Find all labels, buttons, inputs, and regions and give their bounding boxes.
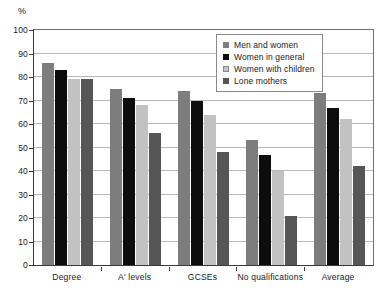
bar [246, 140, 258, 265]
bar-group [110, 30, 161, 265]
y-axis-tick-mark [29, 77, 33, 78]
bar [327, 108, 339, 265]
y-axis-tick-mark [29, 101, 33, 102]
y-axis-tick-label: 60 [4, 119, 28, 129]
bar [285, 216, 297, 265]
x-axis-category-label: GCSEs [188, 272, 217, 282]
y-axis-tick-label: 90 [4, 49, 28, 59]
y-axis-tick-label: 30 [4, 190, 28, 200]
bar [110, 89, 122, 265]
x-axis-tick-mark [169, 267, 170, 271]
bar [149, 133, 161, 265]
bar [42, 63, 54, 265]
x-axis-category-label: Degree [52, 272, 81, 282]
bar [272, 171, 284, 265]
legend-item-label: Women with children [234, 64, 315, 74]
y-axis-tick-label: 50 [4, 143, 28, 153]
y-axis-tick-label: 10 [4, 237, 28, 247]
y-axis-tick-label: 70 [4, 96, 28, 106]
bar [68, 79, 80, 265]
y-axis-tick-label: 20 [4, 213, 28, 223]
y-axis-tick-mark [29, 218, 33, 219]
bar [259, 155, 271, 265]
y-axis-tick-mark [29, 54, 33, 55]
bar [191, 101, 203, 266]
y-axis-tick-mark [29, 195, 33, 196]
y-axis-tick-mark [29, 148, 33, 149]
y-axis-tick-label: 80 [4, 72, 28, 82]
y-axis-tick-mark [29, 30, 33, 31]
bar [136, 105, 148, 265]
bar-group [42, 30, 93, 265]
y-axis-tick-mark [29, 171, 33, 172]
bar [81, 79, 93, 265]
legend-item: Women with children [223, 63, 317, 75]
bar [178, 91, 190, 265]
bar [204, 115, 216, 265]
y-axis-tick-mark [29, 265, 33, 266]
legend: Men and womenWomen in generalWomen with … [216, 34, 323, 92]
legend-swatch-icon [223, 78, 229, 84]
legend-item-label: Lone mothers [234, 76, 287, 86]
y-axis-tick-mark [29, 124, 33, 125]
y-axis-tick-label: 0 [4, 260, 28, 270]
y-axis-tick-mark [29, 242, 33, 243]
legend-item: Lone mothers [223, 75, 317, 87]
legend-item: Men and women [223, 39, 317, 51]
x-axis-tick-mark [101, 267, 102, 271]
legend-swatch-icon [223, 54, 229, 60]
legend-item-label: Men and women [234, 40, 298, 50]
x-axis-tick-mark [236, 267, 237, 271]
bar [340, 119, 352, 265]
bar [217, 152, 229, 265]
legend-item: Women in general [223, 51, 317, 63]
legend-item-label: Women in general [234, 52, 304, 62]
bar-chart: % 0102030405060708090100 DegreeA' levels… [0, 0, 385, 301]
y-axis-tick-label: 40 [4, 166, 28, 176]
y-axis-unit-label: % [18, 6, 26, 16]
x-axis-tick-mark [304, 267, 305, 271]
bar [55, 70, 67, 265]
y-axis-tick-label: 100 [4, 25, 28, 35]
x-axis-category-label: Average [322, 272, 355, 282]
x-axis-category-label: No qualifications [237, 272, 303, 282]
legend-swatch-icon [223, 66, 229, 72]
bar [123, 98, 135, 265]
legend-swatch-icon [223, 42, 229, 48]
bar [353, 166, 365, 265]
bar [314, 93, 326, 265]
x-axis-category-label: A' levels [118, 272, 151, 282]
